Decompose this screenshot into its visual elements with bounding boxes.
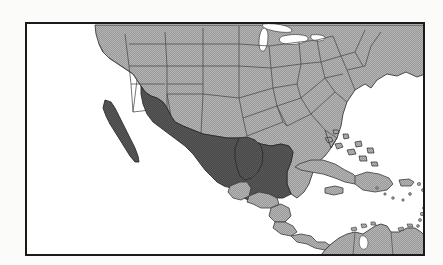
map-title: Map of North America, Central America an… bbox=[0, 0, 1, 1]
map-figure: Map of North America, Central America an… bbox=[0, 0, 443, 265]
lake-maracaibo bbox=[359, 236, 368, 249]
map-frame bbox=[25, 22, 425, 256]
map-canvas bbox=[25, 22, 425, 256]
jamaica bbox=[325, 186, 343, 195]
